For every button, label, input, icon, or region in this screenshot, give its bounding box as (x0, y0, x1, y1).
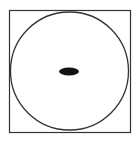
diagram-canvas (0, 0, 138, 143)
center-ellipse (59, 68, 79, 76)
